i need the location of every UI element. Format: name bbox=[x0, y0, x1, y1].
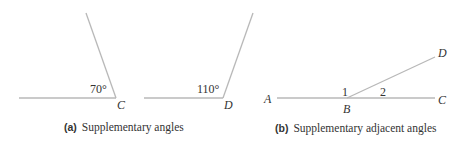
angle-110-value-label: 110° bbox=[197, 83, 219, 95]
vertex-d-label: D bbox=[224, 99, 233, 111]
caption-a: (a)Supplementary angles bbox=[64, 122, 184, 134]
point-c-label: C bbox=[438, 94, 446, 106]
angle-110-side-ray bbox=[223, 13, 253, 98]
adjacent-angles-shape bbox=[277, 57, 435, 98]
vertex-c-label: C bbox=[117, 99, 125, 111]
point-d-label: D bbox=[438, 47, 447, 59]
point-b-label: B bbox=[343, 103, 350, 115]
angle-1-label: 1 bbox=[342, 86, 348, 98]
caption-a-tag: (a) bbox=[64, 121, 77, 133]
point-a-label: A bbox=[264, 93, 271, 105]
caption-b-tag: (b) bbox=[275, 122, 288, 134]
ray-bd bbox=[347, 57, 435, 98]
angle-70-value-label: 70° bbox=[90, 83, 107, 95]
angle-2-label: 2 bbox=[380, 86, 386, 98]
caption-b: (b)Supplementary adjacent angles bbox=[275, 123, 436, 135]
caption-a-text: Supplementary angles bbox=[82, 121, 184, 133]
caption-b-text: Supplementary adjacent angles bbox=[293, 122, 436, 134]
